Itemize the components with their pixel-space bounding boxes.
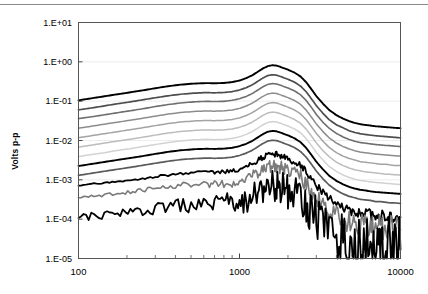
series-line-level-1	[79, 65, 401, 128]
chart-page: Volts p-p 1.E+011.E+001.E-011.E-021.E-03…	[0, 0, 428, 294]
data-series	[79, 65, 401, 258]
series-line-level-2	[79, 75, 401, 138]
chart-canvas	[0, 0, 428, 294]
